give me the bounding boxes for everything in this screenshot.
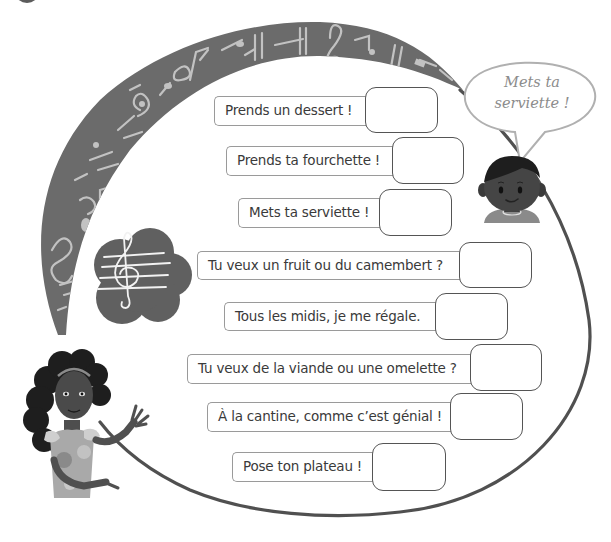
answer-box-8[interactable]	[372, 443, 446, 491]
answer-box-5[interactable]	[435, 293, 508, 340]
dialogue-text: Mets ta serviette !	[249, 204, 369, 220]
answer-box-1[interactable]	[365, 87, 438, 133]
dialogue-text: Pose ton plateau !	[243, 458, 362, 474]
dialogue-label-7: À la cantine, comme c’est génial !	[207, 402, 452, 432]
answer-box-3[interactable]	[379, 189, 452, 236]
answer-box-2[interactable]	[392, 137, 464, 184]
dialogue-text: À la cantine, comme c’est génial !	[218, 408, 442, 424]
answer-box-4[interactable]	[459, 242, 532, 288]
answer-box-6[interactable]	[470, 344, 542, 391]
dialogue-label-5: Tous les midis, je me régale.	[224, 302, 437, 331]
dialogue-label-1: Prends un dessert !	[214, 96, 367, 126]
dialogue-text: Tu veux un fruit ou du camembert ?	[208, 257, 443, 273]
dialogue-text: Tous les midis, je me régale.	[235, 308, 420, 324]
dialogue-label-4: Tu veux un fruit ou du camembert ?	[197, 251, 461, 280]
dialogue-label-3: Mets ta serviette !	[238, 198, 381, 228]
dialogue-text: Prends ta fourchette !	[237, 152, 380, 168]
answer-box-7[interactable]	[450, 393, 523, 440]
dialogue-label-6: Tu veux de la viande ou une omelette ?	[187, 354, 472, 384]
dialogue-label-8: Pose ton plateau !	[232, 452, 375, 482]
dialogue-label-2: Prends ta fourchette !	[226, 146, 394, 176]
dialogue-text: Tu veux de la viande ou une omelette ?	[198, 360, 457, 376]
dialogue-text: Prends un dessert !	[225, 102, 352, 118]
